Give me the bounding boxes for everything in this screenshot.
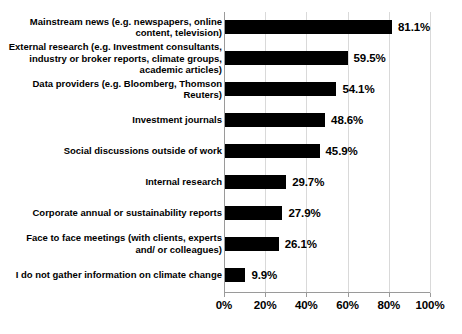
bar xyxy=(225,51,348,65)
bar-row: 54.1% xyxy=(224,74,430,105)
bar-value-label: 45.9% xyxy=(326,145,358,157)
bar-value-label: 48.6% xyxy=(331,114,363,126)
bar-value-label: 54.1% xyxy=(342,83,374,95)
x-axis-line xyxy=(224,292,430,293)
category-label: Mainstream news (e.g. newspapers, online… xyxy=(6,12,222,43)
x-tick-label: 80% xyxy=(377,299,400,311)
category-label: Face to face meetings (with clients, exp… xyxy=(6,228,222,259)
category-label: Internal research xyxy=(6,167,222,198)
bar-value-label: 81.1% xyxy=(398,21,430,33)
bar-row: 27.9% xyxy=(224,197,430,228)
bar-value-label: 26.1% xyxy=(285,238,317,250)
bar-value-label: 9.9% xyxy=(251,269,277,281)
x-tick-label: 20% xyxy=(254,299,277,311)
bar-value-label: 59.5% xyxy=(354,52,386,64)
x-tick-label: 60% xyxy=(336,299,359,311)
plot-area: 81.1%59.5%54.1%48.6%45.9%29.7%27.9%26.1%… xyxy=(224,12,430,293)
bar xyxy=(225,113,325,127)
bar xyxy=(225,20,392,34)
bar xyxy=(225,144,320,158)
bar-chart: Mainstream news (e.g. newspapers, online… xyxy=(0,0,462,334)
bar xyxy=(225,268,245,282)
tick-mark xyxy=(389,293,390,297)
gridline xyxy=(430,12,431,293)
category-label: Social discussions outside of work xyxy=(6,136,222,167)
bar xyxy=(225,206,282,220)
tick-mark xyxy=(430,293,431,297)
bar-row: 48.6% xyxy=(224,105,430,136)
bar-value-label: 27.9% xyxy=(288,207,320,219)
x-tick-label: 40% xyxy=(295,299,318,311)
bar-row: 81.1% xyxy=(224,12,430,43)
tick-mark xyxy=(265,293,266,297)
x-tick-label: 0% xyxy=(216,299,232,311)
category-label: Investment journals xyxy=(6,105,222,136)
category-label: Data providers (e.g. Bloomberg, Thomson … xyxy=(6,74,222,105)
category-label: Corporate annual or sustainability repor… xyxy=(6,197,222,228)
category-label: I do not gather information on climate c… xyxy=(6,259,222,290)
bar xyxy=(225,175,286,189)
bar-row: 45.9% xyxy=(224,136,430,167)
category-label: External research (e.g. Investment consu… xyxy=(6,43,222,74)
bar-row: 26.1% xyxy=(224,228,430,259)
tick-mark xyxy=(224,293,225,297)
tick-mark xyxy=(306,293,307,297)
x-tick-label: 100% xyxy=(415,299,444,311)
bar-row: 29.7% xyxy=(224,167,430,198)
bar-value-label: 29.7% xyxy=(292,176,324,188)
bar-row: 9.9% xyxy=(224,259,430,290)
bar xyxy=(225,82,336,96)
tick-mark xyxy=(348,293,349,297)
bar-row: 59.5% xyxy=(224,43,430,74)
bar xyxy=(225,237,279,251)
